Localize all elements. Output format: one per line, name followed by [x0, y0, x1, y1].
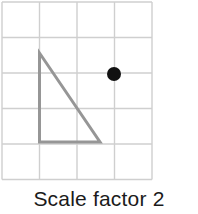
scale-factor-caption: Scale factor 2: [33, 186, 164, 212]
caption-container: Scale factor 2: [0, 184, 198, 214]
scale-factor-figure: Scale factor 2: [0, 0, 198, 214]
grid-diagram: [0, 0, 198, 185]
diagram-background: [0, 0, 198, 185]
centre-of-enlargement-point: [107, 67, 121, 81]
